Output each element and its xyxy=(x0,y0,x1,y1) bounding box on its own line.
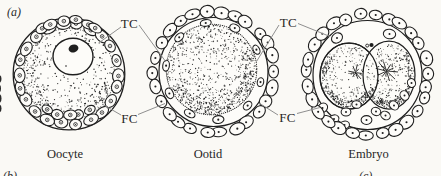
panel-marker-a: (a) xyxy=(7,5,21,19)
label-tc-left: TC xyxy=(121,16,138,31)
panel-marker-c: (c) xyxy=(359,169,372,176)
caption-oocyte: Oocyte xyxy=(47,147,84,161)
label-fc-left: FC xyxy=(121,111,138,126)
figure-panel: (a) (b) (c) TC TC FC FC Oocyte Ootid Emb… xyxy=(0,0,441,176)
caption-embryo: Embryo xyxy=(348,147,388,161)
caption-ootid: Ootid xyxy=(194,147,223,161)
label-tc-right: TC xyxy=(280,15,297,30)
label-fc-right: FC xyxy=(279,110,296,125)
figure-illustration: (a) (b) (c) TC TC FC FC Oocyte Ootid Emb… xyxy=(0,0,441,176)
panel-marker-b: (b) xyxy=(3,169,17,176)
